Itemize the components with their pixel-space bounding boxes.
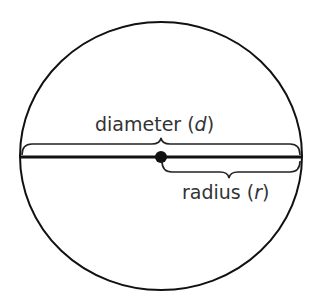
center-point [155, 151, 167, 163]
diameter-text: diameter ( [95, 113, 195, 135]
diameter-label: diameter (d) [95, 113, 214, 135]
diagram-graphic [0, 0, 320, 299]
diameter-close: ) [207, 113, 214, 135]
diameter-variable: d [195, 113, 207, 135]
radius-close: ) [262, 181, 269, 203]
radius-text: radius ( [182, 181, 254, 203]
circle-diagram: diameter (d) radius (r) [0, 0, 320, 299]
radius-label: radius (r) [182, 181, 269, 203]
radius-variable: r [254, 181, 262, 203]
radius-brace [162, 161, 300, 178]
